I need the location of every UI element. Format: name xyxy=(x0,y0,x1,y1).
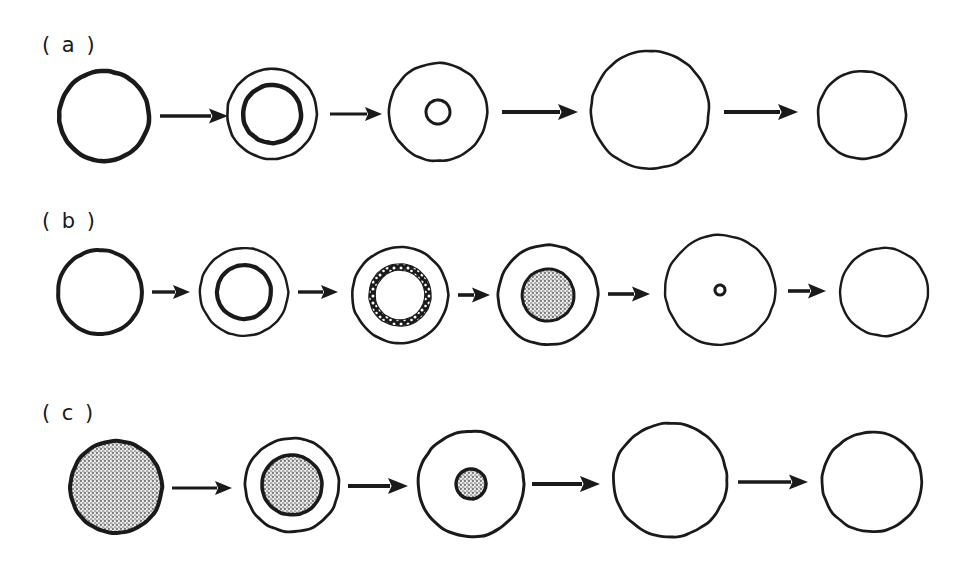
sequence-diagram: ( a )( b )( c ) xyxy=(0,0,972,569)
stage-c-2-inner-circle xyxy=(262,455,322,515)
row-c-label: ( c ) xyxy=(42,401,96,425)
row-a-label: ( a ) xyxy=(42,33,97,57)
row-b-label: ( b ) xyxy=(42,209,98,233)
stage-c-1-outer-circle xyxy=(70,441,162,533)
stage-c-3-inner-circle xyxy=(456,469,486,499)
figure-container: ( a )( b )( c ) xyxy=(0,0,972,569)
stage-b-4-inner-circle xyxy=(522,269,574,321)
stage-c-1[interactable] xyxy=(70,441,162,533)
